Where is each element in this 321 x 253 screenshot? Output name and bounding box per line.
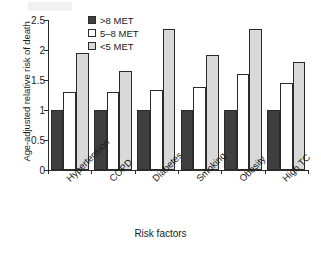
x-axis-tick bbox=[135, 170, 136, 174]
y-axis-tick-label: 1 bbox=[39, 105, 45, 116]
legend-label: >8 MET bbox=[100, 15, 134, 26]
y-axis-tick-label: 2.5 bbox=[31, 15, 45, 26]
legend-swatch bbox=[88, 42, 96, 50]
bar-group bbox=[267, 20, 305, 170]
x-axis-title: Risk factors bbox=[0, 228, 321, 239]
bar bbox=[119, 71, 132, 170]
bar bbox=[51, 110, 64, 170]
y-axis-tick-label: 0 bbox=[39, 165, 45, 176]
bar bbox=[193, 87, 206, 170]
y-axis-title: Age-adjusted relative risk of death bbox=[21, 2, 32, 182]
legend-item: <5 MET bbox=[88, 40, 139, 52]
x-axis-tick bbox=[48, 170, 49, 174]
bar bbox=[237, 74, 250, 170]
bar-group bbox=[224, 20, 262, 170]
scan-artifact bbox=[28, 2, 72, 11]
bar bbox=[137, 110, 150, 170]
bar bbox=[267, 110, 280, 170]
x-axis-tick bbox=[265, 170, 266, 174]
bar-group bbox=[51, 20, 89, 170]
bar bbox=[150, 90, 163, 170]
bar bbox=[224, 110, 237, 170]
legend-swatch bbox=[88, 29, 96, 37]
bar-group bbox=[181, 20, 219, 170]
bar bbox=[249, 29, 262, 170]
y-axis-tick-label: 2 bbox=[39, 45, 45, 56]
x-axis-tick bbox=[178, 170, 179, 174]
bar bbox=[280, 83, 293, 170]
bar bbox=[63, 92, 76, 170]
x-axis-tick bbox=[308, 170, 309, 174]
bar-group bbox=[137, 20, 175, 170]
legend-item: >8 MET bbox=[88, 14, 139, 26]
chart-legend: >8 MET5–8 MET<5 MET bbox=[88, 14, 139, 53]
legend-item: 5–8 MET bbox=[88, 27, 139, 39]
bar bbox=[107, 92, 120, 170]
legend-label: <5 MET bbox=[100, 41, 134, 52]
y-axis-tick-label: 0.5 bbox=[31, 135, 45, 146]
chart-figure: Age-adjusted relative risk of death 00.5… bbox=[0, 0, 321, 253]
x-axis-tick bbox=[221, 170, 222, 174]
legend-label: 5–8 MET bbox=[100, 28, 139, 39]
x-axis-tick bbox=[91, 170, 92, 174]
legend-swatch bbox=[88, 16, 96, 24]
bar bbox=[163, 29, 176, 170]
bar bbox=[181, 110, 194, 170]
y-axis-tick-label: 1.5 bbox=[31, 75, 45, 86]
plot-area: 00.511.522.5 bbox=[48, 20, 308, 170]
y-axis-line bbox=[48, 20, 49, 171]
